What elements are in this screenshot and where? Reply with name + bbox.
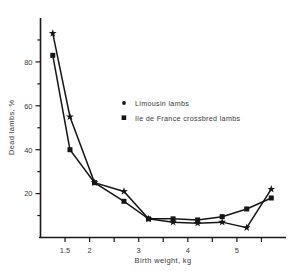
data-point-square	[92, 180, 97, 185]
legend-item-iledefrance: Ile de France crossbred lambs	[122, 114, 241, 123]
legend-label-iledefrance: Ile de France crossbred lambs	[135, 114, 240, 123]
y-axis-title: Dead lambs, %	[7, 100, 16, 155]
data-point-square	[50, 53, 55, 58]
x-tick-label: 1.5	[60, 246, 70, 255]
data-point-square	[67, 147, 72, 152]
data-point-square	[146, 216, 151, 221]
legend-square-icon	[122, 115, 127, 120]
x-tick-label: 3	[137, 246, 141, 255]
x-axis-title: Birth weight, kg	[135, 256, 192, 265]
x-tick-label: 4	[186, 246, 190, 255]
y-tick-label: 60	[24, 102, 32, 111]
y-tick-label: 40	[24, 146, 32, 155]
x-tick-label: 5	[235, 246, 239, 255]
chart-figure: 20406080 Dead lambs, % 1.52345 Birth wei…	[0, 0, 292, 271]
data-point-square	[195, 217, 200, 222]
data-point-square	[244, 206, 249, 211]
y-tick-label: 20	[24, 189, 32, 198]
chart-background	[0, 0, 292, 271]
data-point-square	[220, 214, 225, 219]
data-point-square	[121, 199, 126, 204]
data-point-square	[171, 216, 176, 221]
legend-label-limousin: Limousin lambs	[135, 99, 189, 108]
data-point-square	[269, 195, 274, 200]
y-tick-label: 80	[24, 58, 32, 67]
x-tick-label: 2	[88, 246, 92, 255]
legend-dot-icon	[122, 101, 126, 105]
